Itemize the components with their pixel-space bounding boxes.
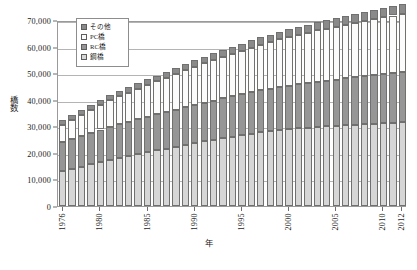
bar-segment [191,60,198,66]
bar-column [380,20,387,206]
bar-column [182,20,189,206]
bar-segment [210,101,217,140]
bar-segment [78,115,85,136]
legend-item[interactable]: RC橋 [81,43,125,53]
bar-column [314,20,321,206]
x-axis-tick-mark [99,207,100,211]
bar-segment [106,100,113,126]
bar-segment [144,152,151,206]
legend-item[interactable]: その他 [81,23,125,33]
bar-segment [351,23,358,77]
legend-item-label: RC橋 [90,44,106,51]
bar-segment [153,81,160,114]
bar-segment [304,33,311,83]
bar-segment [106,95,113,100]
bar-segment [116,96,123,124]
bar-segment [238,44,245,51]
x-axis-tick-label: 1980 [95,213,104,231]
bar-segment [342,16,349,25]
bar-column [238,20,245,206]
bar-segment [172,147,179,206]
bar-segment [229,54,236,97]
bar-segment [78,167,85,206]
bar-column [248,20,255,206]
bar-segment [267,35,274,42]
x-axis-tick-mark [382,207,383,211]
bar-segment [276,87,283,130]
bar-column [370,20,377,206]
bar-segment [267,131,274,206]
bar-segment [399,72,406,122]
bar-segment [125,122,132,157]
bar-segment [87,105,94,110]
bar-segment [210,140,217,206]
bar-segment [68,115,75,120]
bar-segment [87,164,94,206]
bar-column [342,20,349,206]
bar-segment [219,138,226,206]
bar-segment [370,124,377,206]
bar-segment [304,128,311,206]
bar-segment [399,122,406,206]
bar-segment [342,78,349,125]
bar-segment [106,160,113,206]
x-axis-tick-mark [241,207,242,211]
bar-segment [314,22,321,30]
y-axis-tick-label: 0 [47,203,51,212]
bar-column [163,20,170,206]
x-axis-tick-label: 1985 [142,213,151,231]
bar-segment [144,79,151,85]
bar-segment [68,169,75,206]
bar-segment [314,82,321,127]
bar-segment [163,112,170,149]
bar-segment [389,6,396,15]
bar-segment [191,143,198,206]
bar-segment [285,129,292,206]
bar-segment [295,84,302,128]
bar-segment [163,149,170,206]
legend-item[interactable]: 鋼橋 [81,53,125,63]
bar-segment [370,75,377,123]
bar-segment [380,123,387,206]
bar-segment [361,76,368,124]
bar-segment [125,93,132,122]
bar-segment [153,76,160,82]
bar-segment [267,42,274,89]
bar-column [219,20,226,206]
bar-segment [163,78,170,112]
bar-segment [248,92,255,133]
bar-segment [238,51,245,95]
bar-segment [116,158,123,206]
bar-segment [97,100,104,105]
bar-segment [219,98,226,138]
bar-segment [201,141,208,206]
y-axis-tick-label: 70,000 [27,17,51,26]
bar-segment [144,85,151,117]
legend-item-label: 鋼橋 [90,54,104,61]
x-axis-tick-label: 1990 [189,213,198,231]
bar-segment [257,90,264,132]
bar-column [276,20,283,206]
bar-segment [97,130,104,162]
chart-legend: その他PC橋RC橋鋼橋 [76,18,129,67]
bar-segment [153,114,160,150]
x-axis-tick-label: 1976 [57,213,66,231]
x-axis-tick-label: 2012 [397,213,406,231]
legend-item[interactable]: PC橋 [81,33,125,43]
bar-segment [116,91,123,96]
bar-segment [191,67,198,105]
bar-segment [248,48,255,93]
bar-segment [389,73,396,122]
legend-item-label: PC橋 [90,34,105,41]
bar-segment [201,63,208,102]
legend-item-label: その他 [90,24,111,31]
bar-segment [257,45,264,91]
bar-column [153,20,160,206]
legend-swatch-icon [81,44,87,50]
bar-column [295,20,302,206]
bar-segment [285,37,292,86]
bar-segment [257,132,264,206]
y-axis: 010,00020,00030,00040,00050,00060,00070,… [0,21,57,207]
bar-segment [59,171,66,206]
bar-segment [370,19,377,75]
